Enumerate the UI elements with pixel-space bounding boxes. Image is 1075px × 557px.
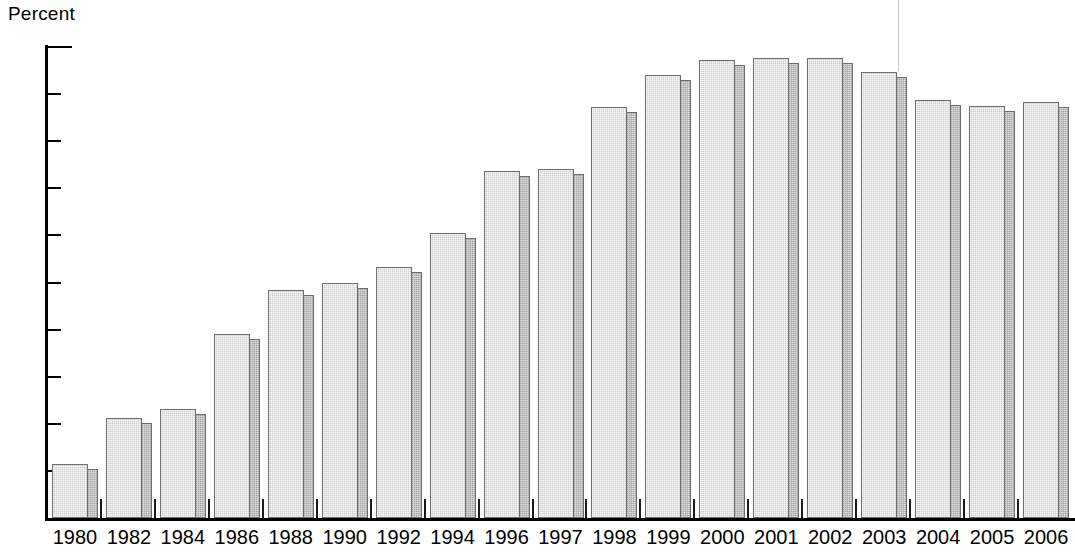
x-axis-label-1986: 1986 bbox=[210, 523, 264, 551]
bar-2002 bbox=[807, 0, 854, 518]
bar-1980 bbox=[52, 0, 99, 518]
bar-front-face bbox=[861, 72, 897, 519]
bar-front-face bbox=[969, 106, 1005, 518]
bar-side-face bbox=[1058, 107, 1069, 518]
bar-side-face bbox=[626, 112, 637, 518]
x-axis-label-1999: 1999 bbox=[641, 523, 695, 551]
x-axis-tick-mark bbox=[963, 499, 965, 518]
x-axis-label-1990: 1990 bbox=[318, 523, 372, 551]
x-axis-label-1994: 1994 bbox=[426, 523, 480, 551]
x-axis-label-1982: 1982 bbox=[102, 523, 156, 551]
x-axis-tick-mark bbox=[154, 499, 156, 518]
bar-front-face bbox=[160, 409, 196, 518]
x-axis-label-2002: 2002 bbox=[803, 523, 857, 551]
x-axis-tick-mark bbox=[1017, 499, 1019, 518]
bar-side-face bbox=[465, 238, 476, 518]
bar-front-face bbox=[268, 290, 304, 518]
bar-1982 bbox=[106, 0, 153, 518]
bar-1999 bbox=[645, 0, 692, 518]
x-axis-tick-mark bbox=[747, 499, 749, 518]
bar-front-face bbox=[52, 464, 88, 518]
bar-side-face bbox=[788, 63, 799, 518]
bar-front-face bbox=[376, 267, 412, 519]
bar-side-face bbox=[411, 272, 422, 519]
x-axis-tick-mark bbox=[208, 499, 210, 518]
x-axis-line bbox=[45, 518, 1075, 521]
x-axis-label-2006: 2006 bbox=[1019, 523, 1073, 551]
bar-front-face bbox=[1023, 102, 1059, 518]
bar-1997 bbox=[538, 0, 585, 518]
bar-side-face bbox=[1004, 111, 1015, 518]
bar-side-face bbox=[519, 176, 530, 518]
bar-1996 bbox=[484, 0, 531, 518]
bar-side-face bbox=[842, 63, 853, 518]
x-axis-tick-mark bbox=[532, 499, 534, 518]
bar-1994 bbox=[430, 0, 477, 518]
x-axis-tick-mark bbox=[585, 499, 587, 518]
bar-2004 bbox=[915, 0, 962, 518]
bar-1998 bbox=[591, 0, 638, 518]
scan-artifact-line bbox=[898, 0, 899, 71]
bar-side-face bbox=[896, 77, 907, 519]
x-axis-label-1992: 1992 bbox=[372, 523, 426, 551]
x-axis-label-2003: 2003 bbox=[857, 523, 911, 551]
bar-side-face bbox=[357, 288, 368, 518]
x-axis-tick-mark bbox=[100, 499, 102, 518]
bar-side-face bbox=[680, 80, 691, 518]
bar-front-face bbox=[915, 100, 951, 518]
bar-side-face bbox=[195, 414, 206, 518]
bar-1984 bbox=[160, 0, 207, 518]
bar-side-face bbox=[950, 105, 961, 518]
bar-side-face bbox=[734, 65, 745, 518]
bar-front-face bbox=[538, 169, 574, 518]
bar-1988 bbox=[268, 0, 315, 518]
x-axis-label-1984: 1984 bbox=[156, 523, 210, 551]
x-axis-label-2001: 2001 bbox=[749, 523, 803, 551]
bar-front-face bbox=[753, 58, 789, 518]
x-axis-tick-mark bbox=[478, 499, 480, 518]
bar-front-face bbox=[322, 283, 358, 518]
bar-side-face bbox=[87, 469, 98, 518]
x-axis-tick-mark bbox=[801, 499, 803, 518]
x-axis-tick-mark bbox=[639, 499, 641, 518]
x-axis-label-1997: 1997 bbox=[534, 523, 588, 551]
x-axis-tick-mark bbox=[316, 499, 318, 518]
x-axis-label-1996: 1996 bbox=[480, 523, 534, 551]
bar-2000 bbox=[699, 0, 746, 518]
x-axis-tick-mark bbox=[424, 499, 426, 518]
bar-front-face bbox=[430, 233, 466, 518]
bar-side-face bbox=[303, 295, 314, 518]
bar-2003 bbox=[861, 0, 908, 518]
bar-front-face bbox=[807, 58, 843, 518]
bar-2001 bbox=[753, 0, 800, 518]
bar-1992 bbox=[376, 0, 423, 518]
bar-front-face bbox=[214, 334, 250, 518]
bar-front-face bbox=[591, 107, 627, 518]
bar-front-face bbox=[645, 75, 681, 518]
bar-2006 bbox=[1023, 0, 1070, 518]
bar-front-face bbox=[484, 171, 520, 518]
x-axis-label-2000: 2000 bbox=[695, 523, 749, 551]
x-axis-label-1988: 1988 bbox=[264, 523, 318, 551]
bar-side-face bbox=[249, 339, 260, 518]
bar-front-face bbox=[699, 60, 735, 518]
bar-front-face bbox=[106, 418, 142, 518]
bar-chart: Percent 05101520253035404550 19801982198… bbox=[0, 0, 1075, 557]
x-axis-label-2005: 2005 bbox=[965, 523, 1019, 551]
x-axis-tick-mark bbox=[370, 499, 372, 518]
x-axis-tick-mark bbox=[855, 499, 857, 518]
x-axis-label-1998: 1998 bbox=[587, 523, 641, 551]
bar-1986 bbox=[214, 0, 261, 518]
bar-2005 bbox=[969, 0, 1016, 518]
bar-side-face bbox=[141, 423, 152, 518]
x-axis-tick-mark bbox=[909, 499, 911, 518]
x-axis-tick-mark bbox=[262, 499, 264, 518]
bar-1990 bbox=[322, 0, 369, 518]
x-axis-tick-mark bbox=[693, 499, 695, 518]
x-axis-label-2004: 2004 bbox=[911, 523, 965, 551]
x-axis-label-1980: 1980 bbox=[48, 523, 102, 551]
bar-side-face bbox=[573, 174, 584, 518]
